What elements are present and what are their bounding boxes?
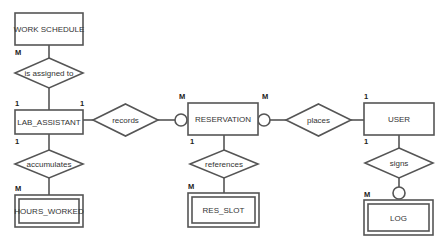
entity-label: USER bbox=[388, 115, 410, 124]
relationship-signs[interactable]: signs bbox=[365, 148, 433, 178]
entity-log[interactable]: LOG bbox=[364, 200, 433, 235]
relationship-label: records bbox=[112, 116, 139, 125]
entity-hours-worked[interactable]: HOURS_WORKED bbox=[14, 195, 84, 227]
relationship-label: references bbox=[205, 160, 243, 169]
cardinality-reservation-bottom: 1 bbox=[190, 137, 194, 146]
cardinality-lab-assistant-left: 1 bbox=[15, 99, 19, 108]
entity-reservation[interactable]: RESERVATION bbox=[188, 103, 258, 135]
cardinality-user-bottom: 1 bbox=[364, 137, 368, 146]
optional-circle-records bbox=[175, 114, 187, 126]
cardinality-reservation-left: M bbox=[179, 92, 185, 101]
cardinality-user-top: 1 bbox=[364, 92, 368, 101]
entity-label: LOG bbox=[390, 214, 407, 223]
er-diagram: WORK SCHEDULE LAB_ASSISTANT HOURS_WORKED… bbox=[0, 0, 444, 247]
relationship-label: signs bbox=[390, 159, 409, 168]
cardinality-log: M bbox=[364, 190, 370, 199]
entity-res-slot[interactable]: RES_SLOT bbox=[188, 193, 259, 227]
entity-label: RES_SLOT bbox=[203, 206, 245, 215]
entity-user[interactable]: USER bbox=[364, 103, 434, 135]
relationship-label: accumulates bbox=[27, 160, 72, 169]
entity-label: HOURS_WORKED bbox=[14, 207, 84, 216]
cardinality-res-slot: M bbox=[188, 182, 194, 191]
cardinality-lab-assistant-bottom: 1 bbox=[15, 137, 19, 146]
cardinality-hours-worked: M bbox=[15, 184, 21, 193]
relationship-label: is assigned to bbox=[25, 69, 74, 78]
entity-work-schedule[interactable]: WORK SCHEDULE bbox=[14, 13, 85, 45]
relationship-references[interactable]: references bbox=[190, 150, 258, 178]
optional-circle-signs bbox=[393, 187, 405, 199]
relationship-places[interactable]: places bbox=[286, 104, 351, 136]
entity-label: LAB_ASSISTANT bbox=[17, 118, 81, 127]
optional-circle-places bbox=[258, 114, 270, 126]
relationship-is-assigned-to[interactable]: is assigned to bbox=[15, 58, 83, 88]
relationship-label: places bbox=[307, 116, 330, 125]
relationship-accumulates[interactable]: accumulates bbox=[15, 150, 83, 178]
relationship-records[interactable]: records bbox=[93, 104, 158, 136]
cardinality-lab-assistant-right: 1 bbox=[80, 99, 84, 108]
entity-lab-assistant[interactable]: LAB_ASSISTANT bbox=[15, 110, 83, 134]
cardinality-reservation-right: M bbox=[262, 92, 268, 101]
entity-label: WORK SCHEDULE bbox=[14, 25, 85, 34]
cardinality-work-schedule: M bbox=[15, 48, 21, 57]
entity-label: RESERVATION bbox=[195, 115, 251, 124]
